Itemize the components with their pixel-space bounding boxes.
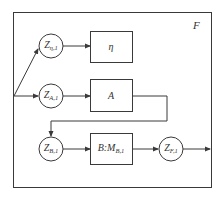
box-eta-label: η bbox=[109, 42, 114, 52]
edge-input-to-z-eta bbox=[14, 49, 38, 96]
box-b-sub: B,1 bbox=[115, 147, 124, 154]
node-z-b-sub: B,1 bbox=[49, 147, 58, 154]
frame-label: F bbox=[193, 20, 200, 31]
edge-a-to-z-b bbox=[51, 96, 167, 136]
box-b-label: B:MB,1 bbox=[98, 143, 125, 155]
node-z-f-label: ZF,1 bbox=[164, 143, 178, 155]
node-z-a-sub: A,1 bbox=[49, 94, 58, 101]
node-z-b-label: ZB,1 bbox=[44, 143, 58, 155]
block-diagram: F Zη,1 ZA,1 ZB,1 ZF,1 η A B:MB,1 bbox=[0, 0, 223, 198]
node-z-eta-sub: η,1 bbox=[50, 44, 58, 51]
node-z-a-label: ZA,1 bbox=[44, 90, 58, 102]
node-z-f-sub: F,1 bbox=[170, 147, 178, 154]
box-b-main: B:M bbox=[98, 142, 116, 153]
box-a-label: A bbox=[108, 91, 114, 101]
node-z-eta-label: Zη,1 bbox=[44, 40, 58, 52]
